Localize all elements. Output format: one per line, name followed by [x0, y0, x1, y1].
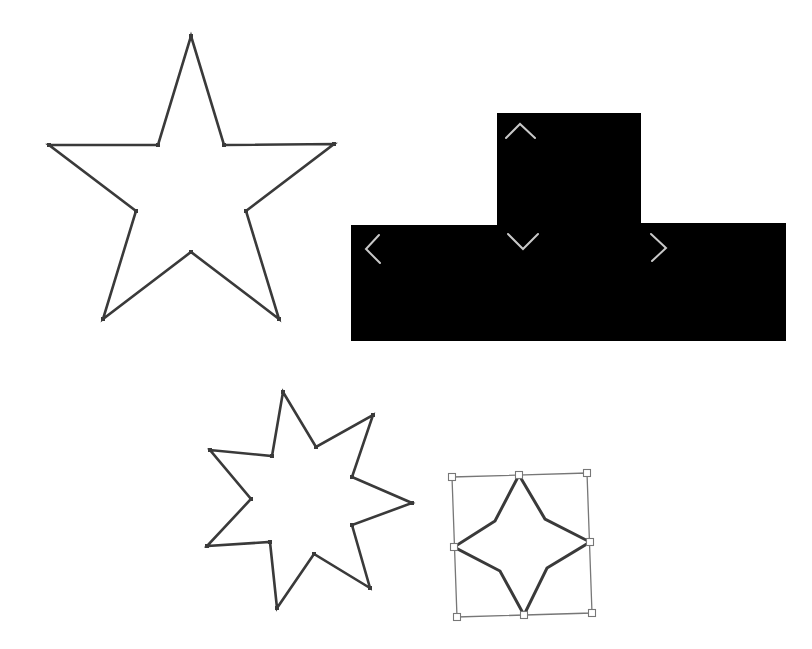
vertex-point	[368, 586, 372, 590]
vertex-point	[249, 497, 253, 501]
resize-handle[interactable]	[449, 474, 456, 481]
vertex-point	[275, 606, 279, 610]
vertex-point	[350, 475, 354, 479]
vertex-point	[208, 448, 212, 452]
vertex-point	[189, 250, 193, 254]
vertex-point	[101, 317, 105, 321]
t-shape-fill[interactable]	[351, 113, 786, 341]
vertex-point	[222, 143, 226, 147]
vertex-point	[281, 390, 285, 394]
vertex-point	[312, 552, 316, 556]
vertex-point	[47, 143, 51, 147]
resize-handle[interactable]	[584, 470, 591, 477]
resize-handle[interactable]	[516, 472, 523, 479]
resize-handle[interactable]	[521, 612, 528, 619]
vertex-point	[350, 523, 354, 527]
resize-handle[interactable]	[454, 614, 461, 621]
resize-handle[interactable]	[451, 544, 458, 551]
resize-handle[interactable]	[587, 539, 594, 546]
resize-handle[interactable]	[589, 610, 596, 617]
seven-point-star-outline[interactable]	[207, 392, 412, 608]
vertex-point	[410, 501, 414, 505]
black-t-shape[interactable]	[351, 113, 786, 341]
seven-point-star[interactable]	[205, 390, 414, 610]
vertex-point	[134, 209, 138, 213]
five-point-star[interactable]	[47, 34, 336, 321]
drawing-canvas[interactable]	[0, 0, 812, 649]
vertex-point	[332, 142, 336, 146]
vertex-point	[156, 143, 160, 147]
four-point-star-selected[interactable]	[449, 470, 596, 621]
four-point-star-outline[interactable]	[454, 475, 590, 615]
vertex-point	[314, 445, 318, 449]
vertex-point	[277, 317, 281, 321]
vertex-point	[270, 454, 274, 458]
vertex-point	[371, 413, 375, 417]
vertex-point	[244, 209, 248, 213]
vertex-point	[205, 544, 209, 548]
five-point-star-outline[interactable]	[49, 36, 334, 319]
vertex-point	[268, 540, 272, 544]
vertex-point	[189, 34, 193, 38]
